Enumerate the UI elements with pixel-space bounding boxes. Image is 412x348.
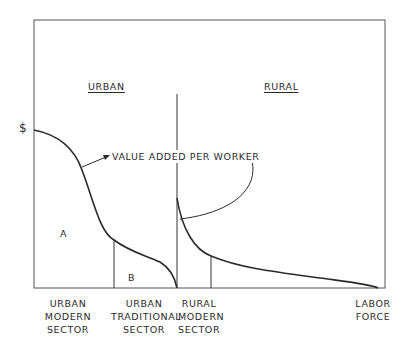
x-label-urban-traditional: URBAN TRADITIONAL SECTOR [111,297,177,336]
x-label-line: MODERN [178,310,220,323]
area-label-b: B [128,271,135,284]
x-label-line: TRADITIONAL [111,310,177,323]
x-label-line: FORCE [352,310,394,323]
x-label-line: SECTOR [111,323,177,336]
labor-sector-diagram: $ URBAN RURAL VALUE ADDED PER WORKER A B… [0,0,412,348]
x-label-labor-force: LABOR FORCE [352,297,394,323]
rural-value-curve [177,198,378,288]
region-label-urban: URBAN [88,80,125,93]
x-label-urban-modern: URBAN MODERN SECTOR [44,297,92,336]
region-label-rural: RURAL [264,80,299,93]
y-axis-label: $ [19,122,27,135]
urban-pointer-line [82,157,106,167]
x-label-rural-modern: RURAL MODERN SECTOR [178,297,220,336]
diagram-graphics [0,0,412,348]
x-label-line: URBAN [44,297,92,310]
x-label-line: RURAL [178,297,220,310]
x-label-line: SECTOR [44,323,92,336]
curve-label: VALUE ADDED PER WORKER [112,150,260,163]
x-label-line: LABOR [352,297,394,310]
x-label-line: MODERN [44,310,92,323]
urban-pointer-arrowhead [103,155,110,160]
x-label-line: SECTOR [178,323,220,336]
area-label-a: A [60,227,67,240]
rural-pointer-curve [180,157,253,219]
x-label-line: URBAN [111,297,177,310]
